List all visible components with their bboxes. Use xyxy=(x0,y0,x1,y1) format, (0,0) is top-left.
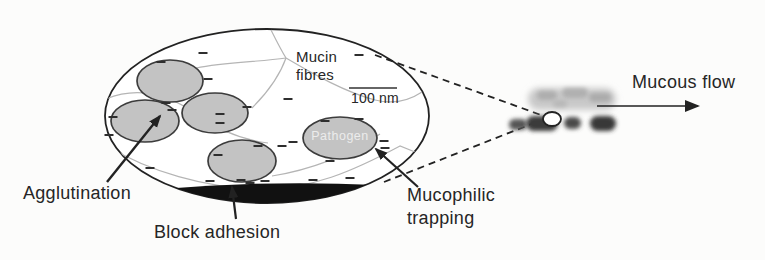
trapped-particle xyxy=(543,112,561,126)
bacterium-cell-4 xyxy=(208,140,276,182)
agglutination-label: Agglutination xyxy=(23,183,131,204)
block-adhesion-label: Block adhesion xyxy=(154,222,280,243)
magnified-view xyxy=(105,29,699,219)
figure-canvas: Mucin fibres 100 nm Pathogen Agglutinati… xyxy=(0,0,765,260)
scale-bar-label: 100 nm xyxy=(351,90,399,106)
mucous-flow-label: Mucous flow xyxy=(632,72,735,93)
pathogen-label: Pathogen xyxy=(311,129,369,143)
mucin-pathogen-diagram xyxy=(0,0,765,260)
mucin-fibres-label: Mucin fibres xyxy=(296,48,337,83)
mucophilic-trapping-label: Mucophilic trapping xyxy=(407,184,495,230)
bacterium-cell-1 xyxy=(137,60,203,102)
bacterium-cell-2 xyxy=(182,93,248,133)
